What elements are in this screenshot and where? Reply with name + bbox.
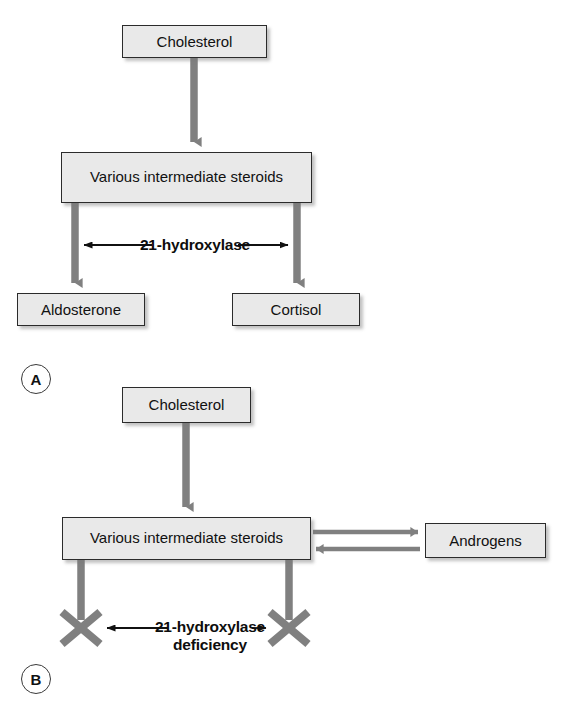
node-intermediate-steroids-b: Various intermediate steroids [62,517,311,560]
panel-tag-b: B [21,664,51,694]
steroid-pathway-figure: Cholesterol Various intermediate steroid… [0,0,576,705]
node-cholesterol-a: Cholesterol [122,25,267,58]
enzyme-label-b: 21-hydroxylase deficiency [130,618,290,654]
node-intermediate-steroids-a: Various intermediate steroids [61,152,312,203]
node-cholesterol-b: Cholesterol [122,387,251,423]
enzyme-label-a: 21-hydroxylase [120,236,270,254]
node-aldosterone: Aldosterone [17,293,145,326]
arrow-layer [0,0,576,705]
node-androgens: Androgens [425,523,546,558]
node-cortisol: Cortisol [232,293,360,326]
panel-tag-a: A [21,364,51,394]
